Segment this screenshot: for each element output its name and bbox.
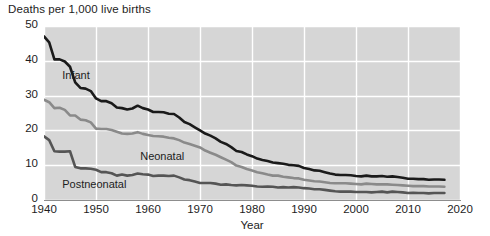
x-tick-label-1990: 1990 xyxy=(282,203,326,215)
series-label-infant: Infant xyxy=(62,69,90,81)
chart-figure: Deaths per 1,000 live births 01020304050… xyxy=(0,0,490,236)
gridlines xyxy=(44,26,460,200)
chart-x-axis-title: Year xyxy=(222,219,282,231)
y-tick-label-30: 30 xyxy=(8,88,38,100)
y-tick-label-10: 10 xyxy=(8,157,38,169)
x-tick-label-1960: 1960 xyxy=(126,203,170,215)
plot-svg xyxy=(44,26,460,200)
series-line-infant xyxy=(44,36,444,179)
plot-area xyxy=(44,26,460,200)
x-tick-label-2020: 2020 xyxy=(438,203,482,215)
x-tick-label-1940: 1940 xyxy=(22,203,66,215)
series-label-neonatal: Neonatal xyxy=(140,150,184,162)
x-tick-label-1970: 1970 xyxy=(178,203,222,215)
x-tick-label-1980: 1980 xyxy=(230,203,274,215)
series-lines xyxy=(44,36,444,193)
series-line-neonatal xyxy=(44,100,444,187)
x-tick-label-1950: 1950 xyxy=(74,203,118,215)
y-tick-label-50: 50 xyxy=(8,18,38,30)
x-axis-line xyxy=(44,200,461,201)
x-tick-label-2000: 2000 xyxy=(334,203,378,215)
y-tick-label-40: 40 xyxy=(8,53,38,65)
x-tick-label-2010: 2010 xyxy=(386,203,430,215)
series-label-postneonatal: Postneonatal xyxy=(62,178,126,190)
chart-y-axis-title: Deaths per 1,000 live births xyxy=(8,3,151,15)
y-tick-label-20: 20 xyxy=(8,122,38,134)
